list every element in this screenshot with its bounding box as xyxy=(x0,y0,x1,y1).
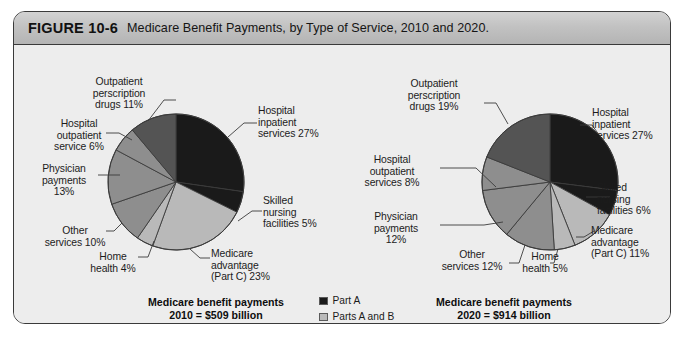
label-2020-skilled-nursing: Skilled nursing facilities 6% xyxy=(597,182,671,217)
caption-2020-line1: Medicare benefit payments xyxy=(436,296,572,308)
label-2020-physician: Physician payments 12% xyxy=(353,211,439,246)
legend-item-1: Parts A and B xyxy=(319,310,394,324)
legend-item-0: Part A xyxy=(319,294,394,308)
legend-item-label: Part A xyxy=(333,295,361,306)
label-2020-medicare-advantage: Medicare advantage (Part C) 11% xyxy=(591,225,671,260)
label-2020-other-services: Other services 12% xyxy=(425,249,519,272)
legend-swatch-icon xyxy=(319,313,328,322)
figure-title: Medicare Benefit Payments, by Type of Se… xyxy=(127,21,489,35)
figure-number: FIGURE 10-6 xyxy=(28,20,118,36)
chart-body: Outpatient perscription drugs 11% Hospit… xyxy=(14,45,670,323)
caption-2020: Medicare benefit payments2020 = $914 bil… xyxy=(404,296,604,322)
leader-line xyxy=(440,222,503,225)
legend-swatch-icon xyxy=(319,297,328,306)
legend-item-label: Parts A and B xyxy=(333,311,395,322)
caption-2020-line2: 2020 = $914 billion xyxy=(457,309,550,321)
pie-chart-2020 xyxy=(14,45,671,323)
label-2020-outpatient-drugs: Outpatient perscription drugs 19% xyxy=(380,78,488,113)
label-2020-hospital-inpatient: Hospital inpatient services 27% xyxy=(592,107,671,142)
label-2020-home-health: Home health 5% xyxy=(511,251,579,274)
chart-legend: Part AParts A and BPart BPart D xyxy=(319,294,394,324)
figure-header: FIGURE 10-6 Medicare Benefit Payments, b… xyxy=(14,12,670,45)
figure-frame: FIGURE 10-6 Medicare Benefit Payments, b… xyxy=(13,11,671,324)
label-2020-hospital-outpatient: Hospital outpatient services 8% xyxy=(344,154,440,189)
